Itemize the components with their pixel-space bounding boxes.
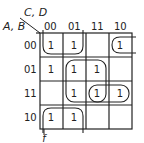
karnaugh-map: C, D A, B 00 01 11 10 00 01 11 10 1 1 1 … — [0, 0, 144, 143]
cell: 1 — [71, 64, 77, 75]
cell: 1 — [48, 112, 54, 123]
cell: 1 — [71, 88, 77, 99]
row-label-11: 11 — [24, 88, 37, 99]
cell: 1 — [94, 88, 100, 99]
row-label-01: 01 — [24, 64, 37, 75]
cell: 1 — [94, 64, 100, 75]
cell: 1 — [48, 40, 54, 51]
col-label-10: 10 — [114, 21, 127, 32]
function-label: f — [42, 133, 47, 143]
row-label-00: 00 — [24, 40, 37, 51]
cell: 1 — [117, 40, 123, 51]
cell: 1 — [71, 40, 77, 51]
cell: 1 — [48, 64, 54, 75]
col-label-01: 01 — [68, 21, 81, 32]
row-var-label: A, B — [2, 20, 25, 33]
cell: 1 — [71, 112, 77, 123]
row-label-10: 10 — [24, 112, 37, 123]
col-label-11: 11 — [91, 21, 104, 32]
cell: 1 — [117, 88, 123, 99]
col-label-00: 00 — [44, 21, 57, 32]
col-var-label: C, D — [24, 6, 47, 19]
